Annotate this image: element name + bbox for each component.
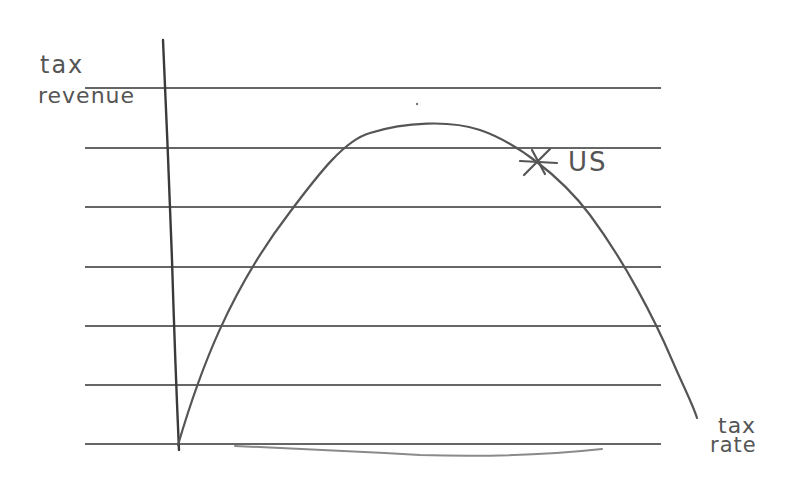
- x-axis-label-line2: rate: [710, 433, 757, 457]
- laffer-curve: [178, 124, 697, 445]
- y-axis: [163, 40, 179, 450]
- y-axis-label-line1: tax: [40, 51, 84, 79]
- marker-label-us: US: [568, 147, 608, 177]
- x-axis-underline: [235, 446, 602, 456]
- pencil-speck: [416, 103, 418, 105]
- y-axis-label-line2: revenue: [38, 83, 135, 108]
- laffer-curve-diagram: tax revenue US tax rate: [0, 0, 805, 485]
